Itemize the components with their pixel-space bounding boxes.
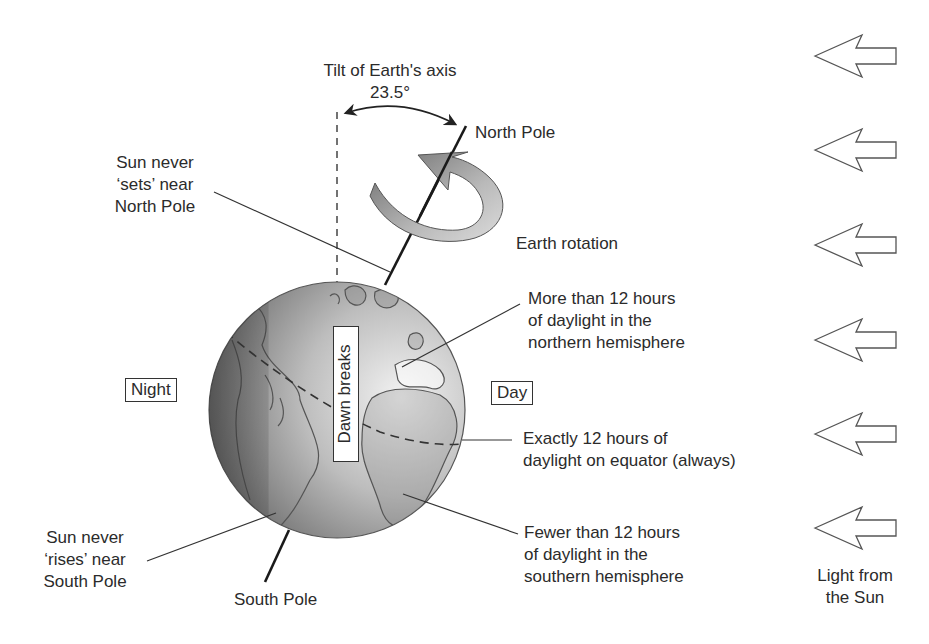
tilt-angle-arc [346, 106, 455, 124]
callout-north-sun: Sun never ‘sets’ near North Pole [100, 152, 210, 218]
sun-arrow-icon [815, 507, 896, 549]
sun-light-arrows [815, 35, 896, 549]
night-label: Night [125, 378, 177, 402]
callout-northern-hemisphere: More than 12 hours of daylight in the no… [528, 288, 685, 354]
south-pole-label: South Pole [234, 589, 317, 611]
earth-globe [193, 282, 465, 538]
sun-arrow-icon [815, 319, 896, 361]
north-pole-label: North Pole [475, 122, 555, 144]
sun-arrow-icon [815, 35, 896, 77]
callout-southern-hemisphere: Fewer than 12 hours of daylight in the s… [524, 522, 684, 588]
sun-light-label: Light from the Sun [800, 565, 910, 609]
sun-arrow-icon [815, 129, 896, 171]
tilt-angle-value: 23.5° [306, 82, 474, 104]
day-label: Day [491, 381, 533, 405]
rotation-arrow-icon [370, 152, 503, 241]
callout-equator: Exactly 12 hours of daylight on equator … [523, 428, 736, 472]
sun-arrow-icon [815, 413, 896, 455]
sun-arrow-icon [815, 224, 896, 266]
earth-rotation-label: Earth rotation [516, 233, 618, 255]
tilt-title: Tilt of Earth's axis 23.5° [306, 60, 474, 104]
earth-axis-south [265, 530, 289, 582]
callout-south-sun: Sun never ‘rises’ near South Pole [30, 527, 140, 593]
dawn-breaks-label: Dawn breaks [333, 326, 359, 462]
